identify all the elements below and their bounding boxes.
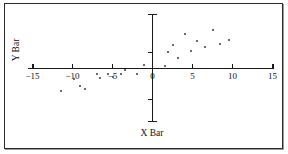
data-point <box>184 33 186 35</box>
axis-end-cap <box>148 14 157 15</box>
data-point <box>136 73 138 75</box>
data-point <box>172 44 174 46</box>
data-point <box>124 69 126 71</box>
x-tick-mark <box>152 64 153 68</box>
data-point <box>73 78 75 80</box>
scatter-plot-figure: −15−10−5051015 X Bar Y Bar <box>0 0 288 154</box>
data-point <box>204 46 206 48</box>
x-tick-mark <box>192 64 193 68</box>
data-point <box>190 50 192 52</box>
axis-end-cap <box>148 121 157 122</box>
data-point <box>96 73 98 75</box>
data-point <box>212 29 214 31</box>
x-tick-label: 10 <box>228 71 237 81</box>
data-point <box>164 65 166 67</box>
x-axis-title: X Bar <box>141 128 164 138</box>
y-tick-mark <box>148 52 153 53</box>
data-point <box>177 57 179 59</box>
data-point <box>143 64 145 66</box>
data-point <box>60 90 62 92</box>
x-tick-label: 15 <box>268 71 277 81</box>
data-point <box>99 77 101 79</box>
y-axis-title: Y Bar <box>11 39 21 62</box>
axis-end-cap <box>273 64 274 69</box>
data-point <box>79 85 81 87</box>
y-axis-line <box>152 14 153 122</box>
x-tick-label: −15 <box>25 71 39 81</box>
data-point <box>84 88 86 90</box>
x-tick-label: −10 <box>65 71 79 81</box>
y-tick-mark <box>148 99 153 100</box>
x-axis-line <box>28 68 274 69</box>
data-point <box>219 43 221 45</box>
data-point <box>120 73 122 75</box>
x-tick-mark <box>232 64 233 68</box>
axis-end-cap <box>33 64 34 69</box>
data-point <box>196 40 198 42</box>
data-point <box>228 39 230 41</box>
x-tick-label: 5 <box>190 71 195 81</box>
x-tick-mark <box>112 64 113 68</box>
data-point <box>167 51 169 53</box>
x-tick-mark <box>72 64 73 68</box>
x-tick-label: 0 <box>150 71 155 81</box>
data-point <box>107 73 109 75</box>
data-point <box>112 76 114 78</box>
